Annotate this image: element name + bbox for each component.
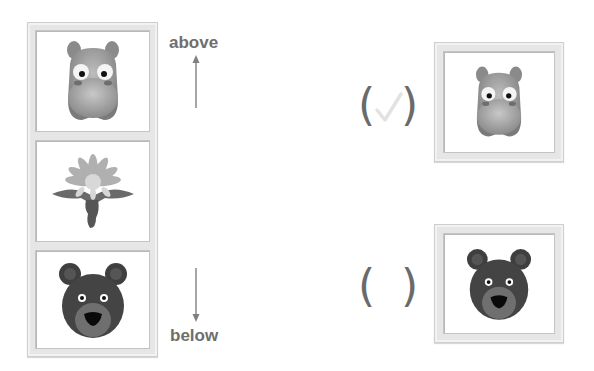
open-paren: ( (358, 264, 375, 308)
choice-bear-frame[interactable] (434, 224, 564, 343)
choice-hippo-cell (443, 51, 555, 153)
open-paren: ( (358, 83, 375, 127)
below-label: below (170, 327, 218, 345)
hippo-face-icon (468, 62, 530, 142)
bear-face-icon (466, 244, 532, 324)
arrow-up-icon (190, 55, 202, 109)
close-paren: ) (401, 264, 418, 308)
answer-blank[interactable] (378, 272, 400, 302)
close-paren: ) (401, 83, 418, 127)
checkmark-icon (374, 90, 404, 124)
choice-hippo-frame[interactable] (434, 42, 564, 162)
choice-bear-cell (443, 233, 555, 334)
dandelion-flower-icon (50, 152, 136, 230)
sequence-cell-top (35, 30, 150, 132)
hippo-face-icon (58, 40, 128, 122)
bear-face-icon (58, 260, 128, 340)
sequence-frame (27, 22, 158, 357)
arrow-down-icon (190, 268, 202, 322)
above-label: above (169, 34, 218, 52)
sequence-cell-middle (35, 140, 150, 242)
sequence-cell-bottom (35, 250, 150, 349)
